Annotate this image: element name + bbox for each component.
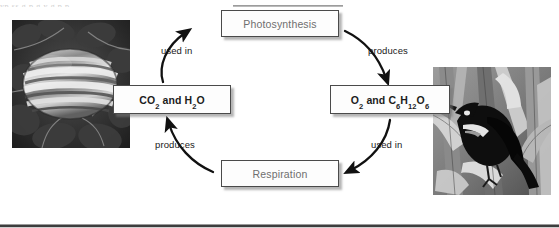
node-products: O2 and C6H12O6	[330, 85, 450, 114]
edge-label-used-in-bottom: used in	[371, 139, 402, 150]
node-respiration-label: Respiration	[253, 168, 308, 180]
edge-label-used-in-top: used in	[161, 45, 192, 56]
node-products-label: O2 and C6H12O6	[351, 94, 429, 106]
node-reactants-label: CO2 and H2O	[139, 94, 204, 106]
node-reactants: CO2 and H2O	[113, 85, 231, 114]
textbook-figure-page: yp ss g p g y g p p	[0, 0, 559, 228]
node-respiration: Respiration	[221, 160, 339, 187]
edge-label-produces-bottom: produces	[155, 139, 195, 150]
arrow-used-in-top	[162, 33, 185, 82]
edge-label-produces-top: produces	[368, 45, 408, 56]
photo-blackbird	[433, 67, 551, 195]
top-divider-rule	[233, 5, 343, 7]
node-photosynthesis-label: Photosynthesis	[243, 18, 316, 30]
page-footer: Science online life.msscience.com/intera…	[0, 197, 559, 228]
node-photosynthesis: Photosynthesis	[221, 10, 339, 37]
footer-divider-rule	[0, 224, 559, 228]
photo-watermelon	[12, 20, 130, 148]
